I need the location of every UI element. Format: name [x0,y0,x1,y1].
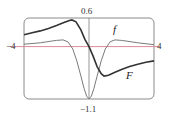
y-max-tick-label: 0.6 [81,7,92,16]
curve-label-F: F [126,70,133,81]
y-min-tick-label: −1.1 [80,105,96,114]
curve-label-f: f [113,24,116,35]
chart-canvas [0,0,169,121]
x-min-tick-label: −4 [6,42,16,51]
x-max-tick-label: 4 [157,42,162,51]
